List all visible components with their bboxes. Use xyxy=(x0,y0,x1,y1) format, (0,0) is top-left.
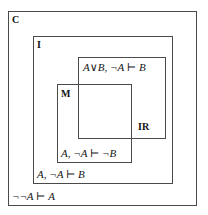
formula-ir: A∨B, ¬A ⊢ B xyxy=(83,62,146,73)
region-label-m: M xyxy=(61,89,70,99)
region-label-ir: IR xyxy=(138,122,149,132)
region-label-i: I xyxy=(37,40,41,50)
formula-i: A, ¬A ⊢ B xyxy=(37,169,85,180)
diagram-canvas: C I IR M A∨B, ¬A ⊢ B A, ¬A ⊢ ¬B A, ¬A ⊢ … xyxy=(0,0,208,215)
formula-c: ¬¬A ⊢ A xyxy=(12,191,55,202)
formula-m: A, ¬A ⊢ ¬B xyxy=(61,148,116,159)
region-label-c: C xyxy=(12,15,19,25)
